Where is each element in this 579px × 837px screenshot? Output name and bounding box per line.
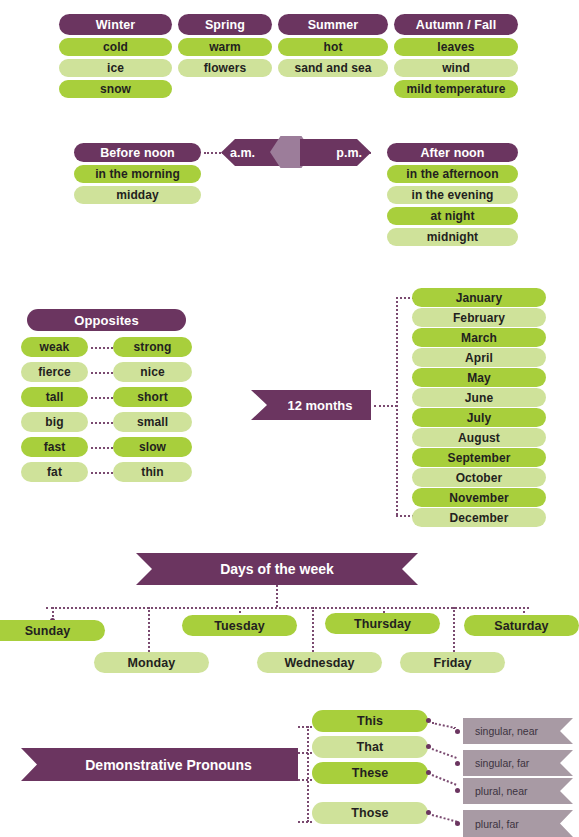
- pronoun-note: singular, near: [463, 718, 573, 744]
- season-title-summer: Summer: [278, 14, 388, 35]
- day-item: Sunday: [0, 620, 105, 641]
- day-item: Tuesday: [182, 615, 297, 636]
- before-noon-item: midday: [74, 186, 201, 204]
- connector-line: [307, 726, 309, 822]
- before-noon-title: Before noon: [74, 143, 201, 162]
- month-item: August: [412, 428, 546, 447]
- opposites-title: Opposites: [27, 309, 186, 331]
- connector-node: [455, 788, 460, 793]
- connector-line: [91, 397, 113, 399]
- season-item: mild temperature: [394, 80, 518, 98]
- after-noon-item: in the evening: [387, 186, 518, 204]
- month-item: June: [412, 388, 546, 407]
- opposite-right: short: [113, 387, 192, 407]
- opposite-left: big: [21, 412, 88, 432]
- pronoun-note: plural, near: [463, 778, 573, 804]
- month-item: November: [412, 488, 546, 507]
- connector-node: [426, 718, 431, 723]
- pronoun-item: That: [312, 736, 428, 758]
- days-title-banner: Days of the week: [136, 553, 418, 585]
- pronoun-note: plural, far: [463, 810, 573, 837]
- season-item: leaves: [394, 38, 518, 56]
- season-item: flowers: [178, 59, 272, 77]
- opposite-right: slow: [113, 437, 192, 457]
- connector-line: [91, 347, 113, 349]
- season-item: ice: [59, 59, 172, 77]
- opposite-right: thin: [113, 462, 192, 482]
- connector-line: [46, 607, 529, 609]
- after-noon-title: After noon: [387, 143, 518, 162]
- connector-line: [432, 748, 457, 759]
- season-item: sand and sea: [278, 59, 388, 77]
- month-item: February: [412, 308, 546, 327]
- connector-line: [91, 447, 113, 449]
- connector-node: [455, 761, 460, 766]
- connector-node: [455, 821, 460, 826]
- pm-chevron: p.m.: [300, 139, 371, 166]
- season-item: wind: [394, 59, 518, 77]
- connector-node: [426, 810, 431, 815]
- opposite-right: small: [113, 412, 192, 432]
- month-item: September: [412, 448, 546, 467]
- connector-line: [91, 422, 113, 424]
- month-item: March: [412, 328, 546, 347]
- connector-line: [432, 814, 458, 823]
- after-noon-item: midnight: [387, 228, 518, 246]
- connector-line: [91, 372, 113, 374]
- connector-node: [426, 770, 431, 775]
- opposite-left: tall: [21, 387, 88, 407]
- before-noon-item: in the morning: [74, 165, 201, 183]
- month-item: April: [412, 348, 546, 367]
- connector-line: [91, 472, 113, 474]
- day-item: Saturday: [464, 615, 579, 636]
- connector-line: [298, 821, 312, 823]
- pronoun-item: This: [312, 710, 428, 732]
- opposite-left: fat: [21, 462, 88, 482]
- season-title-spring: Spring: [178, 14, 272, 35]
- after-noon-item: in the afternoon: [387, 165, 518, 183]
- opposite-right: nice: [113, 362, 192, 382]
- connector-node: [426, 744, 431, 749]
- month-item: December: [412, 508, 546, 527]
- day-item: Wednesday: [257, 652, 382, 673]
- pronoun-item: Those: [312, 802, 428, 824]
- connector-line: [204, 152, 224, 154]
- season-title-autumn: Autumn / Fall: [394, 14, 518, 35]
- connector-node: [455, 729, 460, 734]
- opposite-left: fast: [21, 437, 88, 457]
- season-item: hot: [278, 38, 388, 56]
- connector-line: [432, 774, 457, 786]
- after-noon-item: at night: [387, 207, 518, 225]
- connector-line: [432, 722, 456, 729]
- month-item: May: [412, 368, 546, 387]
- season-title-winter: Winter: [59, 14, 172, 35]
- pronoun-item: These: [312, 762, 428, 784]
- connector-line: [298, 726, 312, 728]
- season-item: cold: [59, 38, 172, 56]
- connector-line: [374, 405, 397, 407]
- day-item: Monday: [94, 652, 209, 673]
- connector-line: [298, 779, 312, 781]
- opposite-left: fierce: [21, 362, 88, 382]
- months-title-banner: 12 months: [251, 390, 371, 420]
- connector-line: [276, 585, 278, 607]
- demonstratives-title-banner: Demonstrative Pronouns: [21, 748, 298, 781]
- day-item: Friday: [400, 652, 505, 673]
- pronoun-note: singular, far: [463, 750, 573, 776]
- opposite-left: weak: [21, 337, 88, 357]
- season-item: snow: [59, 80, 172, 98]
- month-item: October: [412, 468, 546, 487]
- season-item: warm: [178, 38, 272, 56]
- opposite-right: strong: [113, 337, 192, 357]
- connector-line: [396, 297, 398, 515]
- day-item: Thursday: [325, 613, 440, 634]
- month-item: July: [412, 408, 546, 427]
- month-item: January: [412, 288, 546, 307]
- connector-line: [298, 752, 312, 754]
